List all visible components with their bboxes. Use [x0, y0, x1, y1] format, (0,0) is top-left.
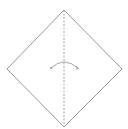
origami-diagram: Square paper oriented as a diamond with …: [0, 0, 128, 129]
diagram-svg: [0, 0, 128, 129]
paper-square-outline: [7, 10, 122, 127]
arrow-start-dot: [50, 67, 52, 69]
